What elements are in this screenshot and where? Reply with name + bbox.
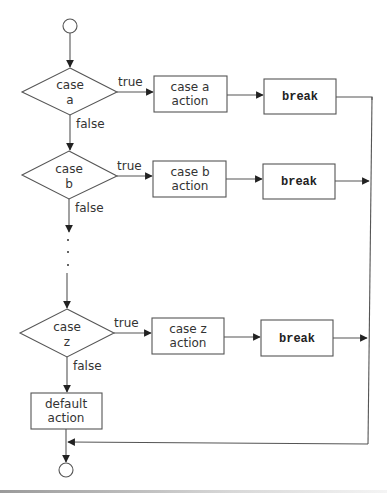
true-label-b: true xyxy=(117,159,142,173)
action-case-b-line1: case b xyxy=(170,165,209,179)
break-label-a: break xyxy=(282,90,318,104)
decision-case-z-line2: z xyxy=(64,335,70,349)
false-label-a: false xyxy=(76,117,105,131)
break-label-z: break xyxy=(279,332,315,346)
action-case-z-line1: case z xyxy=(169,322,207,336)
decision-case-b-line1: case xyxy=(55,162,83,176)
action-case-a-line2: action xyxy=(172,94,209,108)
break-exit-line-a xyxy=(336,97,372,100)
case-b-group: case b true case b action break false xyxy=(22,151,369,232)
case-a-group: case a true case a action break false xyxy=(22,68,372,150)
action-case-b-line2: action xyxy=(172,179,209,193)
false-label-z: false xyxy=(73,359,102,373)
decision-case-z-line1: case xyxy=(53,320,81,334)
action-case-a-line1: case a xyxy=(171,80,210,94)
default-action-line2: action xyxy=(48,411,85,425)
case-z-group: case z true case z action break false xyxy=(20,309,367,392)
return-rail xyxy=(368,97,372,444)
default-action-line1: default xyxy=(45,397,88,411)
true-label-a: true xyxy=(118,75,143,89)
decision-case-a-line2: a xyxy=(66,93,73,107)
false-label-b: false xyxy=(75,201,104,215)
end-node xyxy=(59,463,73,477)
decision-case-a-line1: case xyxy=(56,78,84,92)
decision-case-b-line2: b xyxy=(65,177,73,191)
true-label-z: true xyxy=(114,316,139,330)
ellipsis-dots xyxy=(67,239,69,266)
return-arrow xyxy=(68,442,368,444)
action-case-z-line2: action xyxy=(170,336,207,350)
switch-flowchart: case a true case a action break false ca… xyxy=(0,0,387,493)
start-node xyxy=(63,19,77,33)
break-label-b: break xyxy=(281,175,317,189)
